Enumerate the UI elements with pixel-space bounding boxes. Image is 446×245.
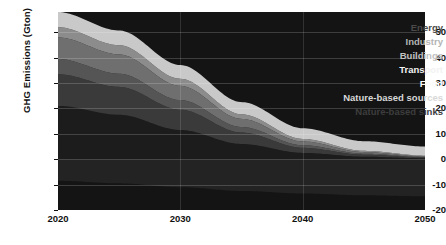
plot-area: [58, 12, 425, 210]
gridline-horizontal: [58, 185, 425, 186]
chart-container: GHG Emissions (Gton) 50403020100-10-20 2…: [0, 0, 446, 245]
y-axis-label: GHG Emissions (Gton): [21, 0, 32, 126]
x-tick-label: 2030: [160, 213, 200, 224]
area-band: [58, 159, 425, 196]
gridline-horizontal: [58, 58, 425, 59]
gridline-horizontal: [58, 83, 425, 84]
gridline-horizontal: [58, 159, 425, 160]
y-tick-mark: [54, 210, 58, 211]
gridline-vertical: [303, 12, 304, 210]
gridline-horizontal: [58, 134, 425, 135]
x-tick-label: 2050: [405, 213, 445, 224]
x-tick-label: 2020: [38, 213, 78, 224]
gridline-horizontal: [58, 32, 425, 33]
gridline-horizontal: [58, 108, 425, 109]
gridline-vertical: [180, 12, 181, 210]
stacked-area-series: [58, 12, 425, 210]
x-tick-label: 2040: [283, 213, 323, 224]
